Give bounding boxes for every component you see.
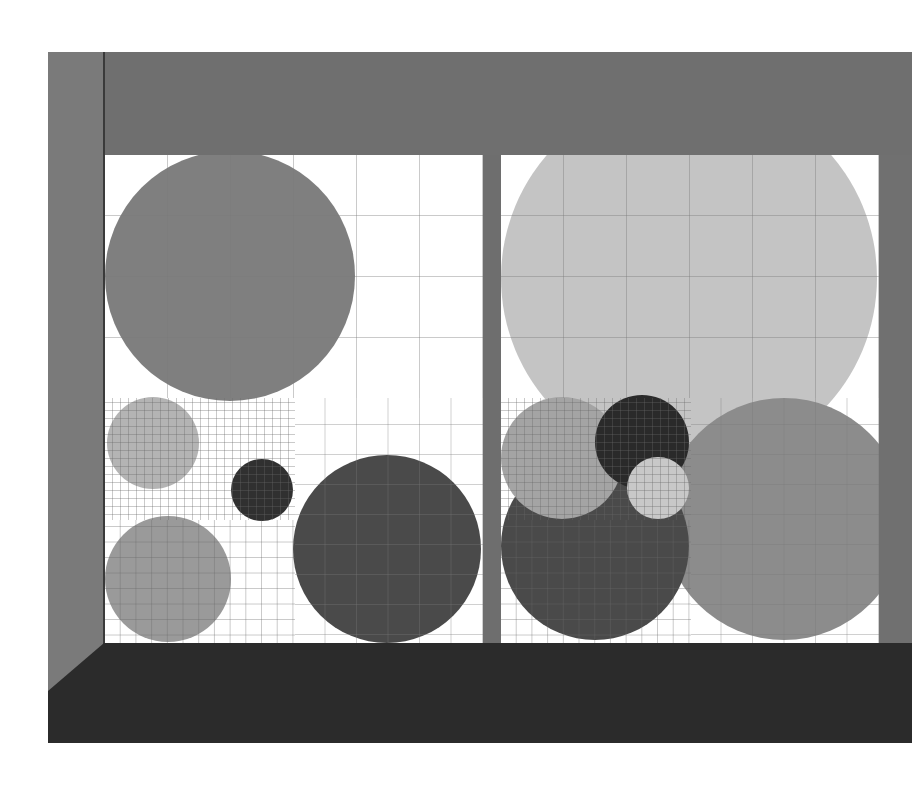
fine-grid [501, 398, 691, 520]
medium-grid [295, 398, 483, 643]
fine-grid [105, 398, 295, 520]
right-wall [879, 155, 912, 645]
medium-grid [105, 520, 295, 643]
right-panel [501, 155, 879, 643]
divider-pillar [483, 155, 501, 645]
right-panel-canvas [501, 155, 879, 643]
medium-grid [501, 520, 691, 643]
floor [48, 643, 912, 743]
top-band [104, 52, 912, 155]
left-wall [48, 52, 104, 692]
left-panel-canvas [105, 155, 483, 643]
coarse-grid [105, 155, 483, 398]
left-panel [105, 155, 483, 643]
coarse-grid [501, 155, 879, 398]
medium-grid [691, 398, 879, 643]
